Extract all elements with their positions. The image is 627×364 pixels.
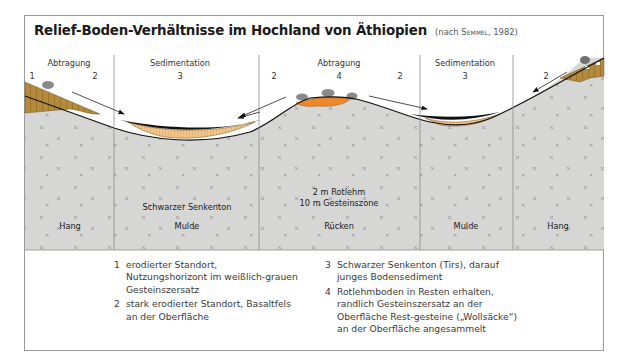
number-2: 2: [271, 71, 276, 81]
number-4: 4: [336, 71, 341, 81]
label-rotlehm: 2 m Rotlehm: [313, 187, 365, 197]
number-3: 3: [177, 71, 182, 81]
bedrock-layer: [25, 58, 604, 250]
number-2: 2: [92, 71, 97, 81]
number-3: 3: [462, 71, 467, 81]
legend-item-3: 3 Schwarzer Senkenton (Tirs), darauf jun…: [325, 259, 525, 284]
header-col-4: Sedimentation: [435, 58, 495, 68]
legend-right: 3 Schwarzer Senkenton (Tirs), darauf jun…: [325, 259, 525, 335]
label-hang-left: Hang: [59, 221, 81, 231]
legend-item-1: 1 erodierter Standort, Nutzungshorizont …: [114, 259, 299, 296]
label-mulde-2: Mulde: [454, 221, 479, 231]
number-2: 2: [397, 71, 402, 81]
legend-item-4: 4 Rotlehmboden in Resten erhalten, randl…: [325, 286, 525, 336]
header-col-2: Sedimentation: [150, 58, 210, 68]
number-1: 1: [29, 71, 34, 81]
label-mulde-1: Mulde: [175, 221, 200, 231]
label-hang-right: Hang: [547, 221, 569, 231]
header-col-1: Abtragung: [47, 58, 90, 68]
relief-soil-diagram: Abtragung 1 2 Sedimentation 3 Abtragung …: [0, 0, 627, 364]
boulder: [42, 81, 54, 89]
label-schwarzer-senkenton: Schwarzer Senkenton: [143, 202, 232, 212]
boulder: [580, 56, 590, 64]
label-ruecken: Rücken: [324, 221, 354, 231]
legend-item-2: 2 stark erodierter Standort, Basaltfels …: [114, 298, 299, 323]
boulder: [322, 89, 335, 97]
legend-left: 1 erodierter Standort, Nutzungshorizont …: [114, 259, 299, 323]
header-col-3: Abtragung: [317, 58, 360, 68]
label-gesteinszone: 10 m Gesteinszone: [300, 198, 379, 208]
number-2: 2: [543, 71, 548, 81]
